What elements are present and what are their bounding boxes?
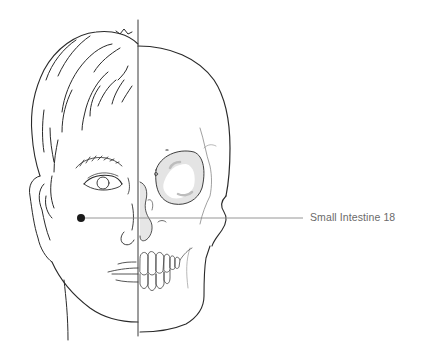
mouth <box>108 262 138 282</box>
acupoint-dot <box>77 214 85 222</box>
acupoint-label: Small Intestine 18 <box>310 211 395 223</box>
eye <box>84 173 130 194</box>
ear <box>29 176 54 262</box>
nose <box>121 204 134 245</box>
teeth <box>140 248 192 291</box>
face-skull-illustration <box>0 0 430 358</box>
hair <box>32 29 139 176</box>
eyebrow <box>76 156 122 168</box>
eye-socket <box>154 151 204 204</box>
